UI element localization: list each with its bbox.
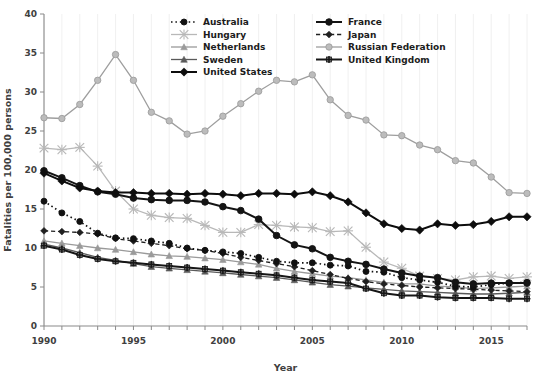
legend-label: United Kingdom [348, 55, 430, 65]
y-tick-label: 25 [24, 126, 37, 136]
legend-label: Russian Federation [348, 42, 446, 52]
y-tick-label: 30 [24, 87, 37, 97]
legend-item-united-states[interactable]: United States [171, 67, 272, 77]
legend-item-sweden[interactable]: Sweden [171, 55, 243, 65]
legend-item-australia[interactable]: Australia [171, 17, 249, 27]
legend-label: Netherlands [203, 42, 265, 52]
series-line [44, 201, 527, 287]
x-tick-label: 2005 [300, 336, 325, 346]
legend-item-united-kingdom[interactable]: United Kingdom [316, 55, 430, 65]
x-tick-label: 1995 [121, 336, 146, 346]
legend-label: Sweden [203, 55, 243, 65]
series-line [44, 55, 527, 194]
y-tick-label: 10 [24, 243, 37, 253]
series-united-states [40, 169, 531, 234]
y-tick-label: 20 [24, 165, 37, 175]
legend-label: Hungary [203, 30, 246, 40]
y-axis-title: Fatalities per 100,000 persons [2, 88, 13, 252]
series-russian-federation [41, 51, 530, 196]
y-tick-label: 15 [24, 204, 37, 214]
y-tick-label: 35 [24, 48, 37, 58]
y-tick-label: 5 [31, 282, 37, 292]
legend-item-hungary[interactable]: Hungary [171, 30, 246, 40]
line-chart: 0510152025303540199019952000200520102015… [0, 0, 534, 382]
legend-item-japan[interactable]: Japan [316, 30, 376, 40]
y-tick-label: 0 [31, 321, 37, 331]
legend-label: Australia [203, 17, 249, 27]
legend: AustraliaHungaryNetherlandsSwedenUnited … [171, 17, 446, 77]
x-tick-label: 2010 [389, 336, 414, 346]
legend-item-russian-federation[interactable]: Russian Federation [316, 42, 446, 52]
series-line [44, 173, 527, 230]
x-tick-label: 1990 [31, 336, 56, 346]
x-tick-label: 2000 [210, 336, 235, 346]
y-tick-label: 40 [24, 9, 37, 19]
legend-item-france[interactable]: France [316, 17, 382, 27]
chart-canvas: 0510152025303540199019952000200520102015… [0, 0, 534, 382]
legend-item-netherlands[interactable]: Netherlands [171, 42, 265, 52]
legend-label: France [348, 17, 382, 27]
x-axis-title: Year [273, 362, 298, 373]
x-tick-label: 2015 [479, 336, 504, 346]
legend-label: United States [203, 67, 272, 77]
legend-label: Japan [347, 30, 376, 40]
